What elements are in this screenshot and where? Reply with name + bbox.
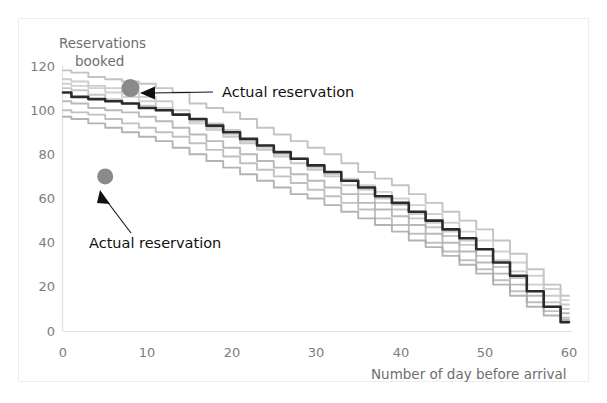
- x-tick-label: 50: [477, 345, 494, 360]
- actual-reservation-dot: [97, 168, 113, 184]
- annotation-upper-label: Actual reservation: [222, 84, 354, 100]
- booking-curve-chart: 120 100 80 60 40 20 0 0 10 20 30 40 50 6…: [0, 0, 607, 403]
- y-tick-label: 100: [30, 103, 55, 118]
- y-tick-label: 20: [38, 279, 55, 294]
- y-tick-label: 0: [47, 324, 55, 339]
- chart-container: 120 100 80 60 40 20 0 0 10 20 30 40 50 6…: [0, 0, 607, 403]
- y-tick-label: 120: [30, 59, 55, 74]
- y-tick-label: 60: [38, 191, 55, 206]
- x-tick-label: 10: [139, 345, 156, 360]
- y-tick-label: 40: [38, 235, 55, 250]
- annotation-lower-label: Actual reservation: [89, 235, 221, 251]
- y-axis-title-line1: Reservations: [59, 35, 146, 51]
- y-tick-label: 80: [38, 147, 55, 162]
- actual-reservation-dot: [122, 79, 140, 97]
- x-tick-label: 30: [308, 345, 325, 360]
- x-tick-label: 20: [224, 345, 241, 360]
- x-tick-label: 60: [561, 345, 578, 360]
- x-tick-label: 40: [393, 345, 410, 360]
- y-axis-title-line2: booked: [75, 53, 124, 69]
- x-tick-label: 0: [59, 345, 67, 360]
- x-axis-title: Number of day before arrival: [371, 366, 567, 382]
